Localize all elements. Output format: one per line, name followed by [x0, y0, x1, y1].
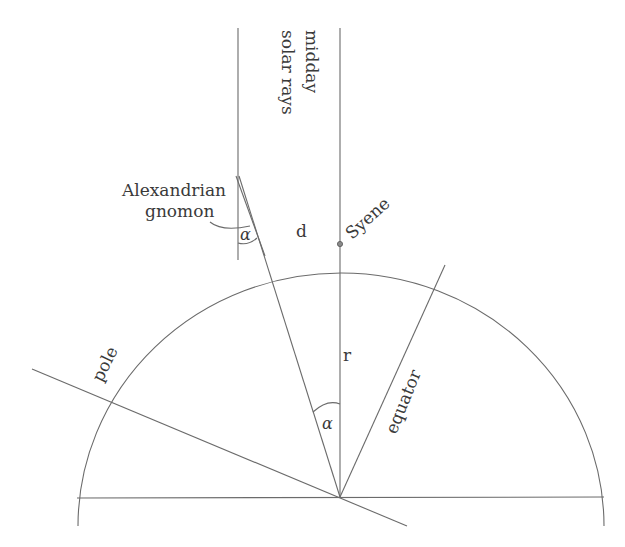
radius-label: r — [343, 345, 352, 365]
gnomon-label-line1: Alexandrian — [121, 180, 226, 200]
eratosthenes-diagram: midday solar rays Alexandrian gnomon α α… — [0, 0, 625, 547]
earth-arc — [78, 273, 604, 526]
rays-label-line1: midday — [302, 30, 322, 93]
pole-label: pole — [88, 343, 122, 385]
syene-point — [337, 241, 342, 246]
equator-label: equator — [381, 366, 425, 437]
pole-line — [32, 369, 407, 526]
syene-label: Syene — [341, 193, 393, 243]
radius-alexandria — [239, 176, 340, 497]
alpha-arc-center — [313, 403, 340, 412]
alpha-label-top: α — [240, 225, 251, 244]
equator-line — [340, 265, 445, 497]
gnomon-label-line2: gnomon — [145, 201, 214, 221]
arc-distance-label: d — [296, 221, 307, 241]
rays-label-line2: solar rays — [278, 30, 298, 115]
alpha-label-center: α — [322, 414, 333, 433]
